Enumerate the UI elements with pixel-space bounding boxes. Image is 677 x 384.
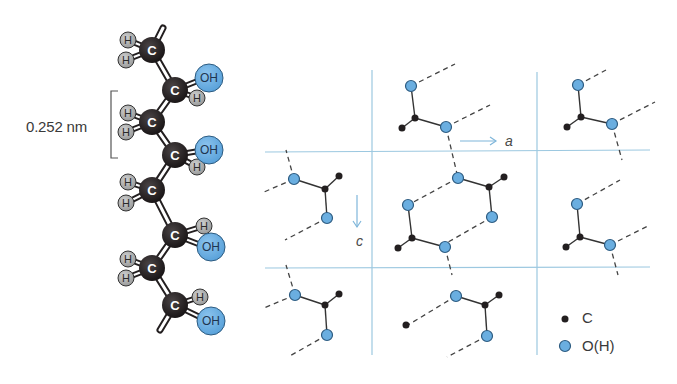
svg-text:H: H xyxy=(200,220,208,232)
svg-text:C: C xyxy=(170,148,180,163)
legend-carbon-symbol xyxy=(562,316,569,323)
svg-text:H: H xyxy=(124,107,132,119)
svg-text:H: H xyxy=(196,291,204,303)
svg-text:H: H xyxy=(122,197,130,209)
svg-text:C: C xyxy=(170,83,180,98)
svg-text:C: C xyxy=(147,43,157,58)
svg-text:OH: OH xyxy=(202,314,220,328)
legend-oxygen-symbol xyxy=(560,341,571,352)
svg-text:H: H xyxy=(193,92,201,104)
svg-text:OH: OH xyxy=(202,240,220,254)
svg-text:C: C xyxy=(170,298,180,313)
distance-bracket xyxy=(111,91,118,158)
svg-text:H: H xyxy=(122,272,130,284)
svg-text:H: H xyxy=(124,34,132,46)
svg-text:OH: OH xyxy=(200,143,218,157)
legend-oxygen-label: O(H) xyxy=(582,337,615,354)
oxygen-atoms xyxy=(289,80,618,342)
svg-text:H: H xyxy=(193,161,201,173)
svg-text:H: H xyxy=(122,126,130,138)
svg-text:H: H xyxy=(122,54,130,66)
legend-carbon-label: C xyxy=(582,309,593,326)
svg-text:H: H xyxy=(124,176,132,188)
svg-text:C: C xyxy=(147,115,157,130)
svg-text:C: C xyxy=(147,183,157,198)
hydrogen-bonds xyxy=(264,64,655,357)
chain-repeat-distance-label: 0.252 nm xyxy=(26,118,87,135)
svg-text:H: H xyxy=(124,253,132,265)
diagram-canvas: HHH HHH HHH HHH OHOH OHOH CCCC CCCC xyxy=(0,0,677,384)
svg-text:OH: OH xyxy=(200,71,218,85)
svg-text:C: C xyxy=(170,228,180,243)
svg-text:C: C xyxy=(147,261,157,276)
axis-a-label: a xyxy=(505,133,513,149)
axis-c-label: c xyxy=(356,233,363,249)
